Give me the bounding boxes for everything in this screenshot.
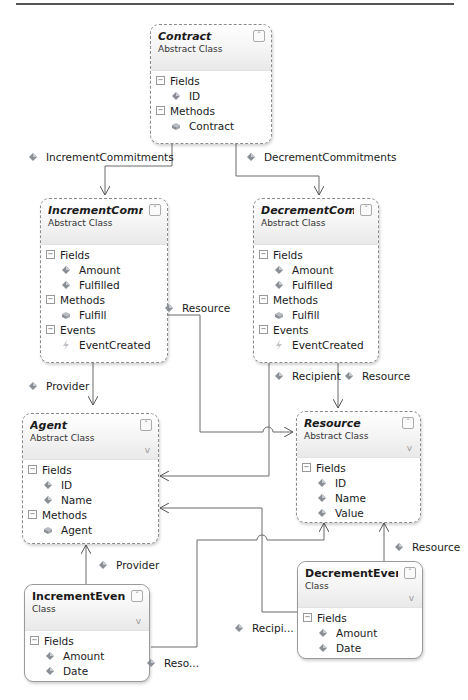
minus-icon[interactable]: −	[156, 106, 165, 115]
member-field[interactable]: ID	[151, 88, 271, 103]
minus-icon[interactable]: −	[46, 325, 55, 334]
property-icon	[28, 152, 38, 162]
member-field[interactable]: Name	[23, 492, 158, 507]
minus-icon[interactable]: −	[30, 636, 39, 645]
section-events[interactable]: −Events	[41, 322, 167, 337]
association-label-resource[interactable]: Resource	[394, 541, 460, 553]
member-field[interactable]: ID	[297, 475, 420, 490]
section-label: Methods	[60, 294, 105, 306]
member-field[interactable]: Amount	[41, 262, 167, 277]
section-events[interactable]: −Events	[254, 322, 378, 337]
field-icon	[171, 91, 181, 101]
class-resource[interactable]: Resource Abstract Class ˄ ᴠ −Fields ID N…	[296, 411, 421, 523]
member-method[interactable]: Contract	[151, 118, 271, 133]
section-fields[interactable]: −Fields	[23, 462, 158, 477]
class-increment-commitment[interactable]: IncrementComm... Abstract Class ˅ −Field…	[40, 198, 168, 363]
minus-icon[interactable]: −	[302, 463, 311, 472]
section-methods[interactable]: −Methods	[151, 103, 271, 118]
minus-icon[interactable]: −	[259, 325, 268, 334]
member-field[interactable]: Value	[297, 505, 420, 520]
class-contract[interactable]: Contract Abstract Class ˄ −Fields ID −Me…	[150, 24, 272, 144]
collapse-icon[interactable]: ˄	[404, 567, 416, 579]
collapse-icon[interactable]: ˄	[131, 590, 143, 602]
association-label-resource-truncated[interactable]: Reso...	[146, 657, 199, 669]
method-icon	[171, 121, 181, 131]
expand-icon[interactable]: ˅	[149, 204, 161, 216]
class-increment-event[interactable]: IncrementEvent Class ˄ ᴠ −Fields Amount …	[24, 584, 150, 682]
association-label-provider[interactable]: Provider	[28, 380, 89, 392]
property-icon	[98, 560, 108, 570]
minus-icon[interactable]: −	[259, 295, 268, 304]
association-label-resource[interactable]: Resource	[164, 302, 230, 314]
filter-icon[interactable]: ᴠ	[136, 616, 141, 626]
section-methods[interactable]: −Methods	[254, 292, 378, 307]
section-fields[interactable]: −Fields	[25, 633, 149, 648]
section-fields[interactable]: −Fields	[298, 610, 422, 625]
member-event[interactable]: EventCreated	[254, 337, 378, 352]
member-name: Agent	[61, 524, 92, 536]
field-icon	[317, 493, 327, 503]
member-name: Value	[335, 507, 364, 519]
property-icon	[394, 542, 404, 552]
class-decrement-event[interactable]: DecrementEvent Class ˄ ᴠ −Fields Amount …	[297, 561, 423, 659]
section-methods[interactable]: −Methods	[41, 292, 167, 307]
member-field[interactable]: Date	[298, 640, 422, 655]
association-name: Resource	[182, 302, 230, 314]
minus-icon[interactable]: −	[46, 250, 55, 259]
collapse-icon[interactable]: ˄	[140, 419, 152, 431]
collapse-icon[interactable]: ˄	[402, 417, 414, 429]
section-methods[interactable]: −Methods	[23, 507, 158, 522]
member-field[interactable]: Fulfilled	[254, 277, 378, 292]
class-header: Agent Abstract Class ˄ ᴠ	[23, 414, 158, 460]
member-field[interactable]: Amount	[25, 648, 149, 663]
minus-icon[interactable]: −	[259, 250, 268, 259]
expand-icon[interactable]: ˅	[360, 204, 372, 216]
class-stereotype: Abstract Class	[261, 218, 354, 228]
section-label: Fields	[44, 635, 74, 647]
class-agent[interactable]: Agent Abstract Class ˄ ᴠ −Fields ID Name…	[22, 413, 159, 544]
section-label: Fields	[273, 249, 303, 261]
association-label-recipient-truncated[interactable]: Recipi...	[234, 622, 294, 634]
member-name: ID	[61, 479, 72, 491]
filter-icon[interactable]: ᴠ	[407, 443, 412, 453]
minus-icon[interactable]: −	[303, 613, 312, 622]
member-method[interactable]: Agent	[23, 522, 158, 537]
association-name: IncrementCommitments	[46, 151, 174, 163]
filter-icon[interactable]: ᴠ	[409, 593, 414, 603]
member-field[interactable]: ID	[23, 477, 158, 492]
member-field[interactable]: Amount	[298, 625, 422, 640]
minus-icon[interactable]: −	[28, 510, 37, 519]
member-field[interactable]: Fulfilled	[41, 277, 167, 292]
association-label-decrement-commitments[interactable]: DecrementCommitments	[246, 151, 397, 163]
member-name: Contract	[189, 120, 234, 132]
minus-icon[interactable]: −	[46, 295, 55, 304]
class-decrement-commitment[interactable]: DecrementComm... Abstract Class ˅ −Field…	[253, 198, 379, 363]
association-label-recipient[interactable]: Recipient	[274, 370, 341, 382]
filter-icon[interactable]: ᴠ	[145, 445, 150, 455]
top-rule	[16, 3, 454, 5]
association-label-provider[interactable]: Provider	[98, 559, 159, 571]
member-field[interactable]: Name	[297, 490, 420, 505]
association-label-increment-commitments[interactable]: IncrementCommitments	[28, 151, 174, 163]
member-event[interactable]: EventCreated	[41, 337, 167, 352]
member-method[interactable]: Fulfill	[41, 307, 167, 322]
section-fields[interactable]: −Fields	[254, 247, 378, 262]
section-fields[interactable]: −Fields	[41, 247, 167, 262]
property-icon	[274, 371, 284, 381]
class-header: DecrementComm... Abstract Class ˅	[254, 199, 378, 245]
member-field[interactable]: Amount	[254, 262, 378, 277]
member-field[interactable]: Date	[25, 663, 149, 678]
member-name: Name	[61, 494, 92, 506]
association-label-resource[interactable]: Resource	[344, 370, 410, 382]
field-icon	[318, 643, 328, 653]
association-name: Reso...	[164, 657, 199, 669]
section-fields[interactable]: −Fields	[151, 73, 271, 88]
collapse-icon[interactable]: ˄	[253, 30, 265, 42]
section-fields[interactable]: −Fields	[297, 460, 420, 475]
class-title: Contract	[158, 30, 247, 43]
minus-icon[interactable]: −	[156, 76, 165, 85]
minus-icon[interactable]: −	[28, 465, 37, 474]
method-icon	[61, 310, 71, 320]
member-method[interactable]: Fulfill	[254, 307, 378, 322]
field-icon	[43, 495, 53, 505]
